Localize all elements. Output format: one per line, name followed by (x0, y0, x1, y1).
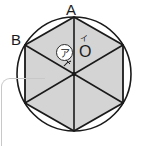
vertex-label-a: A (66, 2, 76, 17)
circled-katakana-a-label: ア (56, 44, 73, 61)
center-label-o: O (79, 44, 91, 60)
center-katakana-i-mark: イ (80, 35, 88, 43)
vertex-label-b: B (11, 32, 21, 47)
rounded-panel-corner (1, 78, 45, 146)
center-point-dot (72, 72, 76, 76)
diagram-canvas: A B イ O ア (0, 0, 146, 146)
